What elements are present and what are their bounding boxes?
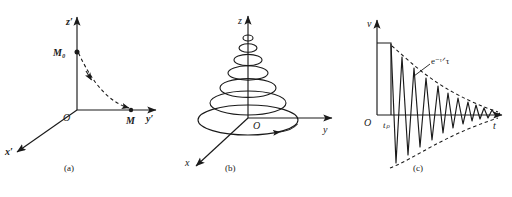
origin-label-c: O	[364, 117, 371, 128]
excitation-pulse-block	[377, 43, 391, 115]
axis-label-y-prime: y′	[145, 113, 153, 124]
panel-sublabel-c: (c)	[413, 163, 423, 173]
figure-container: z′ y′ x′ O M₀ M	[0, 0, 512, 197]
origin-label-a: O	[63, 112, 70, 123]
axis-x	[196, 118, 248, 166]
point-m-marker	[129, 108, 133, 112]
panel-sublabel-a: (a)	[64, 163, 74, 173]
axis-label-z-prime: z′	[65, 16, 73, 27]
panel-sublabel-b: (b)	[225, 163, 236, 173]
axis-label-t: t	[493, 120, 496, 131]
axis-label-y: y	[322, 124, 328, 135]
tick-label-pulse-duration: tₚ	[383, 120, 390, 130]
relaxation-trajectory	[79, 53, 130, 108]
axis-label-x-prime: x′	[4, 146, 13, 157]
point-label-m: M	[125, 115, 136, 126]
origin-label-b: O	[253, 120, 260, 131]
envelope-equation-label: e⁻ᵗᐟτ	[431, 56, 450, 66]
point-m0-marker	[75, 50, 80, 55]
axis-label-v: v	[367, 18, 372, 29]
panel-a: z′ y′ x′ O M₀ M	[0, 0, 168, 197]
envelope-label-leader	[414, 64, 430, 76]
axis-label-z: z	[237, 15, 242, 26]
axis-label-x: x	[184, 157, 190, 168]
panel-b: z y x O	[160, 0, 340, 197]
point-label-m0: M₀	[52, 47, 66, 58]
